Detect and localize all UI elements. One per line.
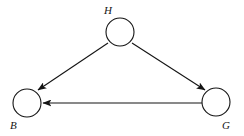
node-label-g: G [222, 119, 230, 131]
node-group [13, 18, 230, 117]
node-label-b: B [10, 119, 17, 131]
node-h[interactable] [106, 18, 134, 46]
edge-h-to-b [38, 43, 108, 90]
edge-h-to-g [132, 43, 205, 90]
node-g[interactable] [202, 88, 230, 116]
node-label-h: H [103, 4, 113, 16]
diagram-canvas: H B G [0, 0, 244, 136]
node-b[interactable] [13, 89, 41, 117]
directed-graph: H B G [0, 0, 244, 136]
edge-group [38, 43, 205, 103]
